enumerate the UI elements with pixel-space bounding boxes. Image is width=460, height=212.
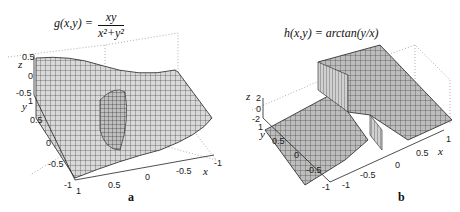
z-axis-label: z — [246, 90, 250, 102]
y-axis-label: y — [22, 100, 27, 112]
y-tick: -0.5 — [306, 165, 322, 175]
x-tick: 1 — [76, 186, 81, 196]
title-a-numerator: xy — [98, 10, 124, 26]
y-axis-label: y — [260, 128, 265, 140]
title-b: h(x,y) = arctan(y/x) — [284, 26, 379, 41]
x-axis-label: x — [438, 145, 443, 157]
x-tick: 0.5 — [416, 148, 429, 158]
x-tick: 0.5 — [108, 180, 121, 190]
panel-a: g(x,y) = xy x²+y² 0.5 0 -0.5 z 1 0.5 0 -… — [0, 0, 230, 212]
x-tick: -1 — [214, 158, 222, 168]
title-a-denominator: x²+y² — [98, 26, 124, 41]
y-tick: 0 — [46, 138, 51, 148]
z-tick: 0 — [256, 104, 261, 114]
y-tick: -0.5 — [48, 159, 64, 169]
panel-b: h(x,y) = arctan(y/x) 2 0 -2 z 1 0.5 0 -0… — [230, 0, 460, 212]
y-tick: 0.5 — [272, 136, 285, 146]
y-tick: -1 — [322, 182, 330, 192]
z-tick: 2 — [256, 93, 261, 103]
y-tick: 1 — [28, 96, 33, 106]
x-tick: 1 — [446, 134, 451, 144]
z-tick: 0 — [28, 71, 33, 81]
z-tick: 0.5 — [22, 52, 35, 62]
y-tick: 0.5 — [30, 115, 43, 125]
y-tick: 0 — [294, 150, 299, 160]
x-tick: 0 — [145, 172, 150, 182]
title-a-lhs: g(x,y) = — [54, 16, 93, 31]
x-tick: -0.5 — [176, 166, 192, 176]
z-axis-label: z — [18, 58, 22, 70]
panel-label-a: a — [128, 190, 134, 205]
x-axis-label: x — [203, 165, 208, 177]
x-tick: -0.5 — [360, 170, 376, 180]
y-tick: -1 — [64, 180, 72, 190]
x-tick: -1 — [342, 180, 350, 190]
x-tick: 0 — [395, 160, 400, 170]
panel-label-b: b — [398, 190, 405, 205]
title-a-fraction: xy x²+y² — [98, 10, 124, 41]
